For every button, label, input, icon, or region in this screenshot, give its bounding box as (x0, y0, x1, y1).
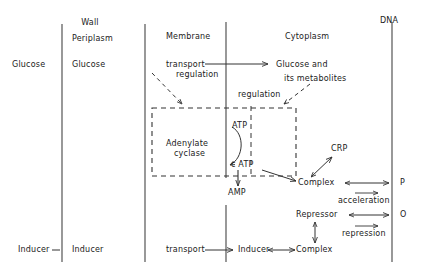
node-transport-bottom: transport (166, 245, 205, 255)
node-inducer-periplasm: Inducer (72, 245, 104, 255)
node-atp: ATP (232, 121, 247, 131)
node-regulation-mid: regulation (238, 90, 281, 100)
node-adenylate-cyclase-line1: Adenylate (166, 139, 208, 149)
node-amp: AMP (228, 188, 246, 198)
node-operator-site: O (400, 210, 407, 220)
node-glucose-extracellular: Glucose (12, 60, 45, 70)
node-glucose-metabolites-line1: Glucose and (276, 60, 328, 70)
node-glucose-metabolites-line2: its metabolites (284, 74, 346, 84)
node-crp: CRP (331, 144, 348, 154)
compartment-boundaries (62, 22, 392, 262)
crp-complex-double-arrow (311, 157, 332, 177)
label-membrane: Membrane (166, 32, 210, 42)
node-inducer-extracellular: Inducer (18, 245, 50, 255)
node-transport-top: transport (166, 60, 205, 70)
metabolite-regulation-dashed-arrow (284, 84, 310, 104)
node-glucose-periplasm: Glucose (72, 60, 105, 70)
node-promoter-site: P (400, 178, 405, 188)
node-repressor: Repressor (296, 210, 338, 220)
node-complex-bottom: Complex (296, 245, 333, 255)
node-regulation-top: regulation (176, 70, 219, 80)
node-inducer-cytoplasm: Inducer (238, 245, 270, 255)
pathway-diagram: Wall Periplasm Membrane Cytoplasm DNA Gl… (0, 0, 422, 270)
label-periplasm: Periplasm (72, 34, 113, 44)
label-dna: DNA (380, 16, 398, 26)
node-cyclic-amp: c ATP (231, 160, 254, 170)
node-acceleration: acceleration (338, 196, 390, 206)
node-repression: repression (342, 229, 386, 239)
node-adenylate-cyclase-line2: cyclase (174, 149, 205, 159)
node-complex-top: Complex (298, 178, 335, 188)
label-wall: Wall (81, 18, 99, 28)
label-cytoplasm: Cytoplasm (285, 32, 329, 42)
